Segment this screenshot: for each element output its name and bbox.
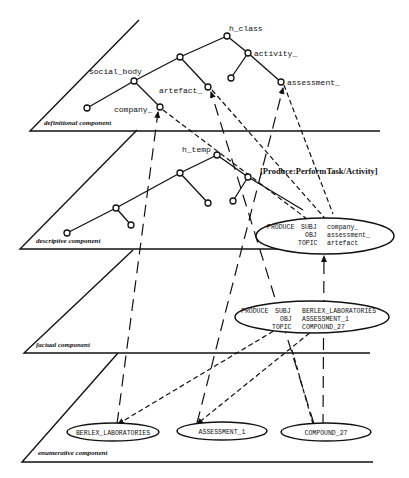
svg-text:artefact: artefact	[327, 240, 358, 247]
node-unnamed	[64, 230, 70, 236]
svg-text:PRODUCE: PRODUCE	[267, 224, 294, 231]
node-activity	[245, 50, 251, 56]
svg-text:OBJ: OBJ	[280, 316, 292, 323]
instance-berlex-laboratories: BERLEX_LABORATORIES	[67, 423, 159, 441]
factual-plane-label: factual component	[36, 341, 91, 349]
svg-text:ASSESSMENT_1: ASSESSMENT_1	[199, 429, 246, 436]
label-h-class: h_class	[229, 24, 263, 33]
node-h-temp	[214, 152, 220, 158]
instance-compound-27: COMPOUND_27	[281, 423, 371, 441]
label-company: company_	[114, 105, 153, 114]
definitional-plane: definitional component	[30, 20, 380, 131]
svg-text:BERLEX_LABORATORIES: BERLEX_LABORATORIES	[302, 308, 376, 315]
node-social-body	[131, 78, 137, 84]
svg-text:BERLEX_LABORATORIES: BERLEX_LABORATORIES	[76, 430, 150, 437]
node-unnamed	[205, 200, 211, 206]
definitional-plane-label: definitional component	[44, 119, 112, 127]
node-unnamed	[113, 205, 119, 211]
svg-text:company_: company_	[327, 224, 358, 231]
svg-text:TOPIC: TOPIC	[272, 324, 292, 331]
descriptive-frame: PRODUCE SUBJ company_ OBJ assessment_ TO…	[256, 218, 394, 254]
descriptive-plane-label: descriptive component	[36, 237, 101, 245]
node-unnamed	[245, 174, 251, 180]
node-unnamed	[84, 105, 90, 111]
enumerative-plane-label: enumerative component	[38, 449, 108, 457]
label-assessment: assessment_	[287, 78, 340, 87]
svg-text:ASSESSMENT_1: ASSESSMENT_1	[302, 316, 349, 323]
node-unnamed	[228, 75, 234, 81]
svg-text:COMPOUND_27: COMPOUND_27	[305, 430, 348, 437]
svg-text:COMPOUND_27: COMPOUND_27	[302, 324, 345, 331]
node-unnamed	[128, 222, 134, 228]
svg-text:PRODUCE: PRODUCE	[241, 308, 268, 315]
svg-text:TOPIC: TOPIC	[298, 240, 318, 247]
svg-text:assessment_: assessment_	[327, 232, 370, 239]
node-unnamed	[177, 54, 183, 60]
frame-type-label: [Produce:PerformTask/Activity]	[260, 166, 378, 176]
node-unnamed	[230, 198, 236, 204]
node-company	[157, 104, 163, 110]
label-social-body: social_body	[89, 67, 142, 76]
node-unnamed	[177, 170, 183, 176]
label-activity: activity_	[254, 49, 297, 58]
enumerative-instances: BERLEX_LABORATORIES ASSESSMENT_1 COMPOUN…	[67, 422, 371, 441]
instance-assessment-1: ASSESSMENT_1	[177, 422, 267, 440]
svg-text:OBJ: OBJ	[305, 232, 317, 239]
label-artefact: artefact_	[159, 86, 202, 95]
instance-links	[117, 85, 333, 426]
node-assessment	[278, 79, 284, 85]
factual-frame: PRODUCE SUBJ BERLEX_LABORATORIES OBJ ASS…	[235, 301, 389, 333]
svg-text:SUBJ: SUBJ	[275, 308, 291, 315]
label-h-temp: h_temp	[182, 145, 211, 154]
layered-knowledge-diagram: definitional component descriptive compo…	[0, 0, 409, 478]
node-h-class	[224, 33, 230, 39]
node-artefact	[205, 84, 211, 90]
enumerative-plane: enumerative component	[22, 353, 373, 462]
svg-text:SUBJ: SUBJ	[301, 224, 317, 231]
